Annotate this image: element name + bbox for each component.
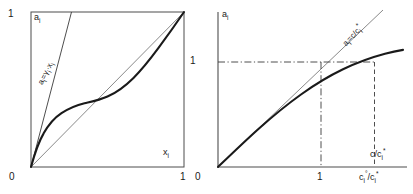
- right-xtick-sat-star: *: [376, 170, 379, 177]
- left-xtick-1: 1: [180, 172, 186, 182]
- right-ytick-1: 1: [190, 56, 196, 66]
- right-x-axis-label-sub: i: [382, 154, 383, 161]
- right-y-axis-label-sub: i: [227, 14, 228, 21]
- right-x-axis-label: c/ci*: [370, 150, 386, 159]
- chart-panel-right: ai c/ci* ai=c/ci* 1 0 1 ci°/ci*: [207, 0, 413, 194]
- right-chart-svg: [207, 0, 413, 194]
- right-xtick-sat-cstar: /c: [368, 172, 375, 182]
- left-ideal-line: [31, 12, 184, 167]
- left-y-axis-label-sub: i: [39, 17, 40, 24]
- left-y-axis-label: ai: [34, 13, 40, 22]
- right-xtick-one: 1: [317, 172, 323, 182]
- right-xtick-sat-cstar-sub: i: [375, 177, 376, 184]
- left-x-axis-label: xi: [163, 148, 169, 157]
- right-xtick-sat-c-sub: i: [364, 177, 365, 184]
- left-chart-svg: [0, 0, 206, 194]
- right-x-axis-label-base: c/c: [370, 149, 382, 159]
- left-tangent-line: [31, 12, 72, 167]
- left-ytick-1: 1: [8, 9, 14, 19]
- right-x-axis-label-star: *: [383, 147, 386, 154]
- right-ytick-0: 0: [195, 172, 201, 182]
- left-x-axis-label-sub: i: [168, 152, 169, 159]
- right-xtick-saturation: ci°/ci*: [359, 173, 379, 182]
- right-y-axis-label: ai: [222, 10, 228, 19]
- chart-panel-left: ai xi ai=γi·xi 1 0 1: [0, 0, 206, 194]
- left-ytick-0: 0: [9, 172, 15, 182]
- two-panel-activity-figure: ai xi ai=γi·xi 1 0 1: [0, 0, 413, 194]
